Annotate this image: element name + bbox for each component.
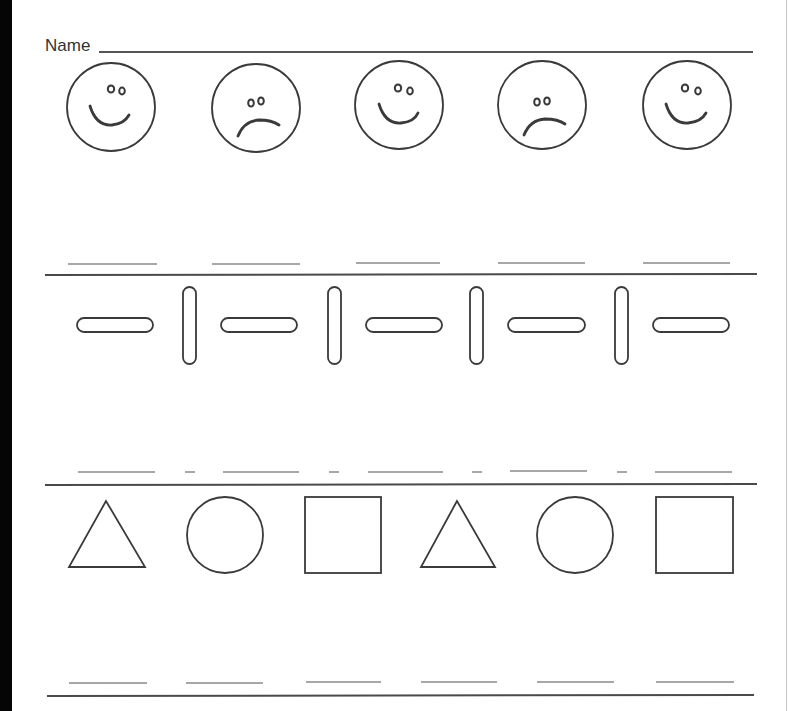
row-faces-answer-blanks[interactable] — [68, 263, 730, 264]
horizontal-bar-icon — [77, 318, 153, 332]
vertical-bar-icon — [183, 287, 196, 364]
horizontal-bar-icon — [366, 318, 442, 332]
happy-face-icon — [67, 63, 155, 151]
row-divider — [45, 274, 757, 275]
vertical-bar-icon — [615, 287, 628, 364]
circle-icon — [537, 497, 613, 573]
happy-face-icon — [355, 61, 443, 149]
horizontal-bar-icon — [653, 318, 729, 332]
row-divider — [45, 484, 757, 485]
row-shapes — [69, 497, 733, 573]
triangle-icon — [421, 501, 495, 567]
worksheet-canvas — [0, 0, 788, 711]
row-bars-answer-blanks[interactable] — [78, 471, 732, 472]
horizontal-bar-icon — [508, 318, 585, 332]
vertical-bar-icon — [470, 287, 483, 364]
sad-face-icon — [212, 64, 300, 152]
vertical-bar-icon — [328, 287, 341, 364]
row-faces — [67, 61, 731, 152]
horizontal-bar-icon — [221, 318, 297, 332]
happy-face-icon — [643, 61, 731, 149]
row-bars — [77, 287, 729, 364]
triangle-icon — [69, 501, 145, 567]
sad-face-icon — [498, 61, 586, 149]
row-shapes-answer-blanks[interactable] — [69, 682, 734, 683]
circle-icon — [187, 497, 263, 573]
square-icon — [656, 497, 733, 573]
row-divider — [47, 695, 754, 696]
square-icon — [305, 497, 381, 573]
